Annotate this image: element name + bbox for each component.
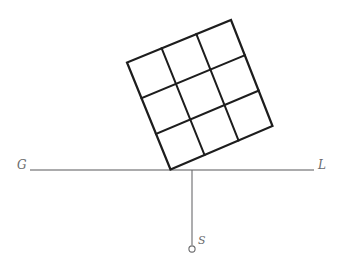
grid-rule [162,48,205,155]
grid-rule [156,91,259,134]
label-ground-right: L [318,159,326,171]
grid-inner-lines [142,34,259,155]
station-point-dot [189,246,195,252]
label-station-point: S [198,235,206,246]
grid-rule [142,55,245,98]
diagram-svg [0,0,339,279]
diagram-canvas: G L S [0,0,339,279]
grid-rule [196,34,238,140]
tilted-grid [127,20,273,170]
label-ground-left: G [17,159,27,171]
